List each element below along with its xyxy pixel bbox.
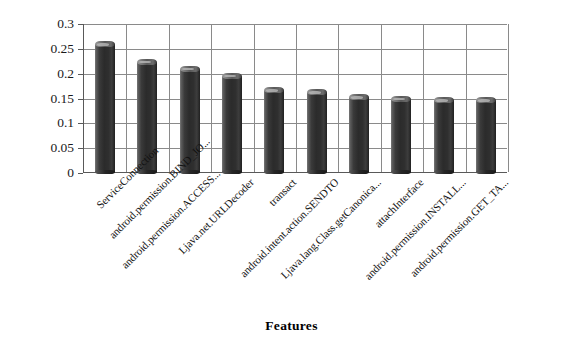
bar bbox=[434, 100, 454, 172]
bar bbox=[264, 90, 284, 172]
bar-cap-highlight bbox=[97, 43, 109, 46]
bar-slot bbox=[465, 24, 507, 172]
y-axis-tick-label: 0.2 bbox=[20, 66, 74, 82]
bar-base bbox=[476, 170, 496, 174]
y-axis-tick-label: 0 bbox=[20, 165, 74, 181]
bar-cap-highlight bbox=[224, 75, 236, 78]
x-axis-title: Features bbox=[0, 318, 583, 334]
bar-slot bbox=[338, 24, 380, 172]
bar-base bbox=[307, 170, 327, 174]
y-axis-tick-label: 0.3 bbox=[20, 16, 74, 32]
y-axis-tick-label: 0.15 bbox=[20, 91, 74, 107]
bar-base bbox=[434, 170, 454, 174]
bar-base bbox=[391, 170, 411, 174]
chart-figure: Weights 00.050.10.150.20.250.3 ServiceCo… bbox=[0, 0, 583, 354]
bar-cap-highlight bbox=[266, 89, 278, 92]
bar-base bbox=[349, 170, 369, 174]
y-axis-tick-label: 0.25 bbox=[20, 41, 74, 57]
bar-cap-highlight bbox=[436, 99, 448, 102]
bar-slot bbox=[253, 24, 295, 172]
bar-cap-highlight bbox=[351, 96, 363, 99]
gridline-vertical bbox=[508, 24, 509, 172]
bar-base bbox=[95, 170, 115, 174]
bar-base bbox=[222, 170, 242, 174]
bar-slot bbox=[211, 24, 253, 172]
y-axis-tick-label: 0.05 bbox=[20, 140, 74, 156]
bar-cap-highlight bbox=[139, 61, 151, 64]
bar-slot bbox=[84, 24, 126, 172]
bar-cap-highlight bbox=[478, 99, 490, 102]
bar-slot bbox=[295, 24, 337, 172]
bar bbox=[391, 99, 411, 173]
bar-slot bbox=[380, 24, 422, 172]
bar bbox=[307, 92, 327, 172]
bar-cap-highlight bbox=[309, 91, 321, 94]
bar bbox=[222, 76, 242, 172]
bar bbox=[95, 44, 115, 172]
bar-cap-highlight bbox=[182, 68, 194, 71]
y-axis-title: Weights bbox=[0, 0, 14, 28]
bar-slot bbox=[422, 24, 464, 172]
x-axis-tick-label: transact bbox=[144, 176, 299, 331]
bar bbox=[476, 100, 496, 172]
bar-cap-highlight bbox=[393, 98, 405, 101]
bar-base bbox=[264, 170, 284, 174]
x-axis-tick-label: ServiceConnection bbox=[94, 176, 129, 211]
y-axis-tick-mark bbox=[78, 173, 83, 174]
bar bbox=[349, 97, 369, 172]
y-axis-tick-label: 0.1 bbox=[20, 115, 74, 131]
